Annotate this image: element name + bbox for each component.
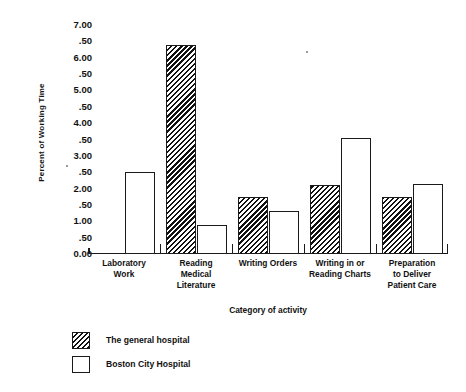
y-tick-label: .50: [6, 200, 92, 210]
y-tick-label: .50: [6, 135, 92, 145]
bar-boston-city-hospital: [269, 211, 299, 254]
speck-artifact-upper: [306, 51, 308, 53]
bar-boston-city-hospital: [125, 172, 155, 254]
bar-general-hospital: [238, 197, 268, 254]
speck-artifact-axis: [66, 165, 68, 167]
y-tick-label: 3.00: [6, 151, 92, 161]
y-tick-label: 6.00: [6, 53, 92, 63]
x-axis-title: Category of activity: [88, 305, 448, 315]
legend-item: Boston City Hospital: [72, 352, 332, 376]
y-tick-label: .50: [6, 102, 92, 112]
legend-item: The general hospital: [72, 328, 332, 352]
y-tick-label: 5.00: [6, 85, 92, 95]
y-tick-label: 7.00: [6, 20, 92, 30]
x-category-label-line: Medical: [154, 269, 238, 280]
x-axis-group-tick: [160, 244, 161, 254]
legend-label: Boston City Hospital: [106, 359, 191, 369]
bar-boston-city-hospital: [341, 138, 371, 254]
y-tick-label: .50: [6, 167, 92, 177]
x-category-label-line: Preparation: [370, 258, 454, 269]
legend-swatch-open: [72, 356, 90, 373]
bar-general-hospital: [166, 45, 196, 254]
bar-boston-city-hospital: [197, 225, 227, 254]
bar-boston-city-hospital: [413, 184, 443, 254]
x-category-label-line: Patient Care: [370, 280, 454, 291]
bar-general-hospital: [382, 197, 412, 254]
x-axis-group-tick: [304, 244, 305, 254]
x-category-label: Preparationto DeliverPatient Care: [370, 258, 454, 292]
bar-chart-figure: Percent of Working Time 7.00.506.00.505.…: [0, 0, 466, 392]
plot-area: [88, 25, 448, 254]
x-category-label-line: to Deliver: [370, 269, 454, 280]
y-tick-label: .50: [6, 233, 92, 243]
x-axis-group-tick: [232, 244, 233, 254]
y-tick-label: .50: [6, 69, 92, 79]
y-tick-label: 4.00: [6, 118, 92, 128]
y-tick-label: 1.00: [6, 216, 92, 226]
y-tick-label: 2.00: [6, 184, 92, 194]
x-axis-category-labels: LaboratoryWorkReadingMedicalLiteratureWr…: [88, 258, 448, 308]
legend-label: The general hospital: [106, 335, 190, 345]
origin-tick-mark: [88, 248, 90, 254]
axis-end-tick: [447, 244, 448, 254]
bar-general-hospital: [310, 185, 340, 254]
y-tick-label: 0.00: [6, 249, 92, 259]
y-tick-label: .50: [6, 36, 92, 46]
legend-swatch-hatched: [72, 332, 90, 349]
x-axis-group-tick: [376, 244, 377, 254]
x-category-label-line: Literature: [154, 280, 238, 291]
chart-legend: The general hospitalBoston City Hospital: [72, 328, 332, 376]
